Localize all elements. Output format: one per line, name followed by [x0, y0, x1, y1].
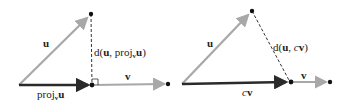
label-u-right: u: [207, 37, 213, 49]
point-v-tip-left: [166, 82, 170, 86]
vector-cv-right: [182, 82, 286, 84]
label-distance-left: d(u, projvu): [94, 46, 146, 60]
left-diagram: u d(u, projvu) v projvu: [19, 12, 170, 102]
label-v-left: v: [125, 70, 131, 82]
point-proj-left: [90, 83, 95, 88]
point-u-tip-right: [250, 9, 254, 13]
vector-u-left: [19, 18, 87, 85]
point-v-tip-right: [328, 80, 332, 84]
right-diagram: u d(u, cv) v cv: [182, 9, 332, 98]
point-cv-right: [289, 80, 294, 85]
point-u-tip-left: [89, 12, 93, 16]
distance-dashed-line-left: [91, 14, 92, 85]
vector-v-left: [92, 84, 164, 85]
label-v-right: v: [301, 69, 307, 81]
label-distance-right: d(u, cv): [273, 41, 308, 54]
label-proj-left: projvu: [37, 88, 64, 102]
vector-u-right: [182, 15, 248, 84]
projection-distance-diagram: u d(u, projvu) v projvu u d(u, cv) v cv: [0, 0, 343, 106]
label-cv-right: cv: [242, 86, 253, 98]
label-u-left: u: [43, 37, 49, 49]
